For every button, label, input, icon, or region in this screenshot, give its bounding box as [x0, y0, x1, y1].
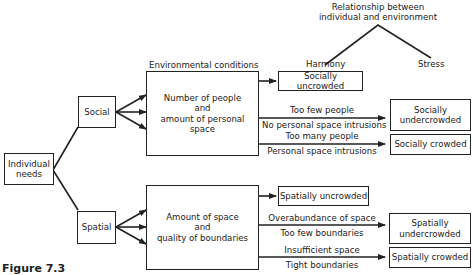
- too-many-people-label: Too many people: [262, 131, 382, 141]
- spatial-condition-line2: and: [157, 222, 248, 233]
- too-few-boundaries-label: Too few boundaries: [262, 228, 382, 238]
- insufficient-space-label: Insufficient space: [262, 245, 382, 255]
- spatially-undercrowded-box: Spatiallyundercrowded: [389, 213, 471, 244]
- spatially-crowded-label: Spatially crowded: [392, 252, 468, 263]
- spatially-undercrowded-line2: undercrowded: [399, 229, 461, 240]
- social-condition-line1: Number of people: [147, 93, 258, 104]
- stress-label: Stress: [418, 59, 444, 69]
- figure-caption: Figure 7.3: [2, 262, 65, 275]
- too-few-people-label: Too few people: [262, 105, 382, 115]
- socially-uncrowded-box: Socially uncrowded: [278, 71, 363, 91]
- overabundance-of-space-label: Overabundance of space: [262, 213, 382, 223]
- personal-space-intrusions-label: Personal space intrusions: [262, 146, 382, 156]
- individual-needs-line1: Individual: [8, 159, 50, 170]
- social-label: Social: [84, 107, 109, 118]
- relationship-title-line1: Relationship between: [318, 2, 438, 12]
- spatially-uncrowded-label: Spatially uncrowded: [280, 191, 367, 202]
- spatially-uncrowded-box: Spatially uncrowded: [278, 186, 369, 206]
- socially-undercrowded-line2: undercrowded: [400, 115, 462, 126]
- spatially-undercrowded-line1: Spatially: [399, 218, 461, 229]
- individual-needs-line2: needs: [8, 169, 50, 180]
- harmony-label: Harmony: [306, 59, 345, 69]
- socially-undercrowded-box: Sociallyundercrowded: [390, 99, 471, 131]
- spatial-condition-line3: quality of boundaries: [157, 233, 248, 244]
- social-condition-line3: amount of personal space: [147, 114, 258, 135]
- spatially-crowded-box: Spatially crowded: [389, 247, 471, 268]
- environmental-conditions-label: Environmental conditions: [149, 60, 258, 70]
- socially-crowded-label: Socially crowded: [394, 139, 466, 150]
- spatial-box: Spatial: [77, 211, 116, 244]
- spatial-label: Spatial: [82, 222, 112, 233]
- individual-needs-box: Individualneeds: [4, 153, 54, 185]
- social-box: Social: [78, 96, 116, 128]
- no-personal-space-intrusions-label: No personal space intrusions: [262, 120, 386, 130]
- social-condition-box: Number of people and amount of personal …: [146, 71, 259, 156]
- relationship-title-line2: individual and environment: [318, 12, 438, 22]
- spatial-condition-box: Amount of space and quality of boundarie…: [146, 185, 259, 270]
- socially-crowded-box: Socially crowded: [390, 134, 471, 155]
- socially-uncrowded-label: Socially uncrowded: [279, 71, 362, 92]
- social-condition-line2: and: [147, 103, 258, 114]
- socially-undercrowded-line1: Socially: [400, 105, 462, 116]
- tight-boundaries-label: Tight boundaries: [262, 260, 382, 270]
- spatial-condition-line1: Amount of space: [157, 212, 248, 223]
